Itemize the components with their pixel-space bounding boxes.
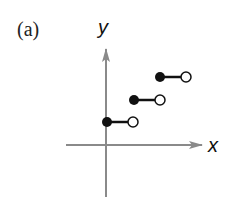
open-endpoint [128,117,138,127]
closed-endpoint [129,95,139,105]
closed-endpoint [102,117,112,127]
step-segment-3 [155,72,191,82]
panel-label: (a) [17,18,39,41]
open-endpoint [155,95,165,105]
step-segment-1 [102,117,138,127]
x-axis-label: x [207,134,219,156]
step-segment-2 [129,95,165,105]
step-function-figure: (a) x y [0,0,239,199]
closed-endpoint [155,72,165,82]
y-axis-label: y [96,16,109,38]
open-endpoint [181,72,191,82]
